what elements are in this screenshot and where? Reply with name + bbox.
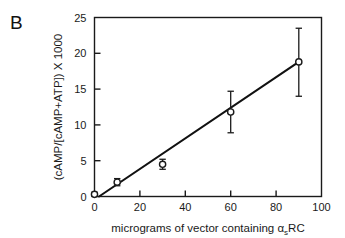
- x-axis-title: micrograms of vector containing αsRC: [111, 222, 304, 237]
- x-tick-label: 40: [179, 201, 191, 213]
- y-tick-label: 5: [80, 155, 86, 167]
- data-point: [114, 179, 120, 185]
- y-axis-ticks: [95, 53, 101, 160]
- y-axis-title-text: (cAMP/[cAMP+ATP]) X 1000: [52, 34, 64, 180]
- y-tick-label: 20: [74, 47, 86, 59]
- data-point: [228, 109, 234, 115]
- regression-line-segment: [99, 62, 299, 197]
- x-title-prefix: micrograms of vector containing: [111, 222, 277, 234]
- scatter-chart: 020406080100 0510152025 micrograms of ve…: [0, 0, 345, 238]
- data-points: [91, 59, 302, 198]
- plot-frame-rect: [95, 18, 322, 197]
- y-axis-title: (cAMP/[cAMP+ATP]) X 1000: [52, 34, 64, 180]
- data-point: [91, 191, 97, 197]
- error-bars: [91, 28, 302, 196]
- x-tick-label: 80: [270, 201, 282, 213]
- y-tick-label: 15: [74, 83, 86, 95]
- regression-line: [99, 62, 299, 197]
- data-point: [296, 59, 302, 65]
- y-tick-label: 25: [74, 12, 86, 24]
- y-tick-label: 0: [80, 191, 86, 203]
- data-point: [160, 161, 166, 167]
- x-tick-label: 20: [134, 201, 146, 213]
- x-tick-label: 0: [91, 201, 97, 213]
- x-tick-label: 60: [225, 201, 237, 213]
- x-title-suffix: RC: [288, 222, 305, 234]
- figure-panel: B 020406080100 0510152025 micrograms of …: [0, 0, 345, 238]
- plot-frame: [95, 18, 322, 197]
- x-axis-tick-labels: 020406080100: [91, 201, 330, 213]
- x-tick-label: 100: [312, 201, 330, 213]
- x-axis-title-text: micrograms of vector containing αsRC: [111, 222, 304, 237]
- y-axis-tick-labels: 0510152025: [74, 12, 86, 203]
- x-axis-ticks: [140, 191, 276, 197]
- y-tick-label: 10: [74, 119, 86, 131]
